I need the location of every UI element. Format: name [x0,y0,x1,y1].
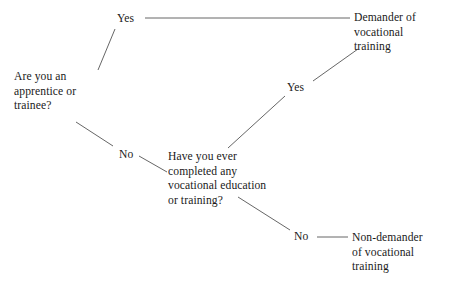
edge-q2-to-yes2 [228,96,285,148]
edge-label-q1-no: No [119,148,133,162]
edge-yes2-to-demander [313,49,358,81]
node-outcome-non-demander: Non-demander of vocational training [352,231,454,275]
edge-label-q2-yes: Yes [287,81,304,95]
edge-label-q1-yes: Yes [117,12,134,26]
node-question-completed-vocational-education: Have you ever completed any vocational e… [168,150,290,208]
edge-q1-to-no1 [76,122,113,146]
node-question-apprentice-or-trainee: Are you an apprentice or trainee? [14,70,110,114]
node-outcome-demander: Demander of vocational training [354,11,454,55]
edge-label-q2-no: No [294,230,308,244]
edge-no1-to-q2 [139,156,167,172]
decision-tree-diagram: Are you an apprentice or trainee? Have y… [0,0,456,288]
edge-q1-to-yes1 [98,29,115,70]
